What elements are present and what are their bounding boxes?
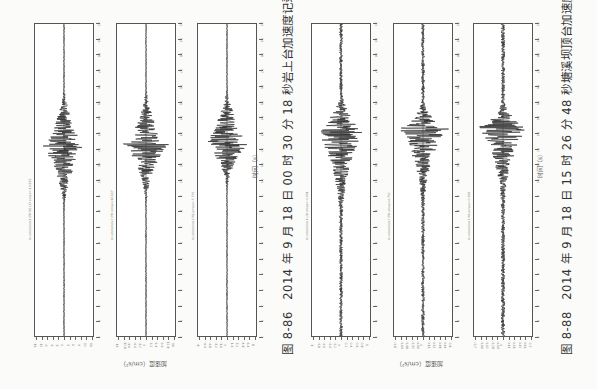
accel-time-history-panel: [197, 23, 257, 337]
time-tick-label: 6: [179, 242, 183, 244]
time-tick-label: 7: [179, 226, 183, 228]
amplitude-tick: [451, 337, 452, 340]
amplitude-tick-label: 3.2: [236, 343, 240, 348]
amplitude-tick-label: 0: [60, 344, 64, 346]
amplitude-tick: [53, 337, 54, 340]
time-tick-label: 18: [536, 53, 540, 57]
amplitude-tick: [174, 337, 175, 340]
time-tick-label: 14: [456, 116, 460, 120]
amplitude-tick-label: -0.42: [485, 341, 489, 349]
time-tick-label: 17: [97, 69, 101, 73]
record-label: Acceleration 2 EW amax=14.637: [110, 190, 114, 240]
time-tick-label: 3: [536, 289, 540, 291]
time-tick-label: 16: [374, 85, 378, 89]
time-tick-label: 20: [179, 22, 183, 26]
amplitude-tick: [503, 337, 504, 340]
amplitude-tick: [520, 337, 521, 340]
amplitude-tick-label: -0.4: [328, 342, 332, 348]
time-tick-label: 4: [374, 273, 378, 275]
time-tick-label: 16: [260, 85, 264, 89]
amplitude-tick: [525, 337, 526, 340]
time-tick-label: 2: [536, 305, 540, 307]
amplitude-tick-label: -6: [49, 344, 53, 347]
amplitude-tick-label: -6.4: [203, 342, 207, 348]
amplitude-tick: [86, 337, 87, 340]
amplitude-tick: [58, 337, 59, 340]
time-tick-label: 9: [536, 195, 540, 197]
amplitude-tick-label: -3: [55, 344, 59, 347]
amplitude-tick-label: 6: [71, 344, 75, 346]
amplitude-tick-label: 12: [83, 343, 87, 347]
amplitude-tick: [135, 337, 136, 340]
amplitude-tick-label: -0.8: [317, 342, 321, 348]
time-tick-label: 16: [97, 85, 101, 89]
amplitude-tick: [352, 337, 353, 340]
time-tick-label: 17: [536, 69, 540, 73]
amplitude-tick: [163, 337, 164, 340]
amplitude-tick-label: -12.8: [122, 341, 126, 349]
waveform-trace: [35, 24, 93, 336]
time-tick-label: 14: [260, 116, 264, 120]
amplitude-tick: [417, 337, 418, 340]
amplitude-tick: [216, 337, 217, 340]
amplitude-tick-label: -1: [310, 344, 314, 347]
time-tick-label: 4: [97, 273, 101, 275]
time-tick-label: 2: [260, 305, 264, 307]
time-tick-label: 12: [179, 148, 183, 152]
amplitude-tick-label: 0: [223, 344, 227, 346]
time-tick-label: 13: [374, 132, 378, 136]
time-tick-label: 14: [536, 116, 540, 120]
time-tick-label: 15: [97, 101, 101, 105]
time-tick-label: 7: [260, 226, 264, 228]
amplitude-tick: [81, 337, 82, 340]
time-tick-label: 3: [456, 289, 460, 291]
amplitude-tick-label: -16: [115, 343, 119, 348]
time-tick-label: 18: [374, 53, 378, 57]
figure-caption: 图 8-86 2014 年 9 月 18 日 00 时 30 分 18 秒岩上台…: [279, 0, 295, 355]
time-tick-label: 1: [97, 320, 101, 322]
amplitude-tick: [47, 337, 48, 340]
time-axis: 01234567891011121314151617181920: [96, 23, 106, 337]
amplitude-tick: [244, 337, 245, 340]
time-tick-label: 17: [374, 69, 378, 73]
amplitude-tick-label: 0.6: [355, 343, 359, 348]
time-axis: 01234567891011121314151617181920: [259, 23, 269, 337]
record-label: Acceleration 3 NS amax=-0.658: [467, 192, 471, 240]
amplitude-tick: [255, 337, 256, 340]
time-tick-label: 19: [260, 38, 264, 42]
time-tick-label: 0: [456, 336, 460, 338]
waveform-trace: [312, 24, 370, 336]
amplitude-tick-label: -0.6: [322, 342, 326, 348]
amplitude-tick: [157, 337, 158, 340]
amplitude-tick-label: 9: [77, 344, 81, 346]
amplitude-tick-label: 15: [89, 343, 93, 347]
amplitude-tick: [64, 337, 65, 340]
amplitude-tick: [363, 337, 364, 340]
time-tick-label: 18: [456, 53, 460, 57]
amplitude-tick-label: 0.7: [528, 343, 532, 348]
amplitude-tick-label: 0: [419, 344, 423, 346]
amplitude-tick: [486, 337, 487, 340]
accel-time-history-panel: [311, 23, 371, 337]
record-label: Acceleration 3 NS amax=-7.770: [191, 192, 195, 240]
amplitude-tick-label: 16: [171, 343, 175, 347]
time-tick-label: 19: [179, 38, 183, 42]
time-tick-label: 20: [456, 22, 460, 26]
time-tick-label: 12: [374, 148, 378, 152]
amplitude-tick-labels: -0.8-0.64-0.48-0.32-0.1600.160.320.480.6…: [393, 343, 453, 349]
amplitude-tick-labels: -16-12.8-9.6-6.4-3.203.26.49.612.816: [116, 343, 176, 349]
time-axis: 01234567891011121314151617181920: [535, 23, 545, 337]
amplitude-tick-labels: -1-0.8-0.6-0.4-0.200.20.40.60.81: [311, 343, 371, 349]
time-tick-label: 7: [97, 226, 101, 228]
time-tick-label: 6: [536, 242, 540, 244]
amplitude-tick-label: 1: [365, 344, 369, 346]
time-tick-label: 5: [536, 258, 540, 260]
time-tick-label: 0: [179, 336, 183, 338]
time-tick-label: 5: [179, 258, 183, 260]
amplitude-tick: [509, 337, 510, 340]
time-tick-label: 5: [456, 258, 460, 260]
amplitude-tick: [347, 337, 348, 340]
time-tick-label: 10: [536, 179, 540, 183]
amplitude-tick-labels: -8-6.4-4.8-3.2-1.601.63.24.86.48: [197, 343, 257, 349]
amplitude-tick-labels: -0.7-0.56-0.42-0.28-0.1400.140.280.420.5…: [473, 343, 533, 349]
